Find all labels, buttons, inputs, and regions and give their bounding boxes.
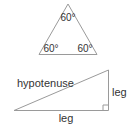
- bottom-right-angle-label: 60°: [77, 43, 92, 54]
- equilateral-triangle: 60° 60° 60°: [39, 4, 97, 55]
- hypotenuse-label: hypotenuse: [17, 77, 74, 89]
- right-triangle: hypotenuse leg leg: [14, 70, 127, 124]
- vertical-leg-label: leg: [112, 86, 127, 98]
- geometry-diagram: 60° 60° 60° hypotenuse leg leg: [0, 0, 134, 134]
- top-angle-label: 60°: [60, 12, 75, 23]
- bottom-left-angle-label: 60°: [43, 43, 58, 54]
- horizontal-leg-label: leg: [59, 112, 74, 124]
- right-angle-marker: [103, 105, 109, 111]
